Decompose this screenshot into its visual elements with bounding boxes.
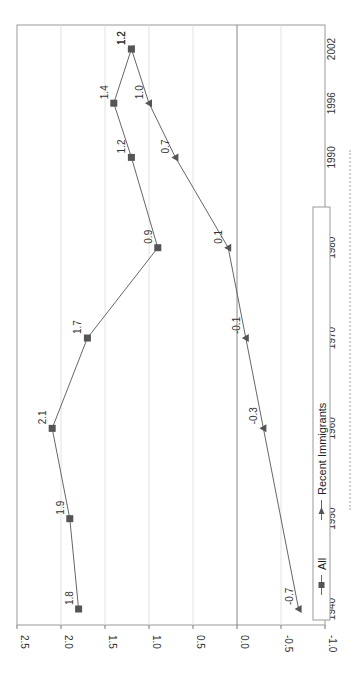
plot-area: [17, 25, 325, 625]
data-label: 2.1: [37, 410, 48, 424]
series-layer: 1.81.92.11.70.91.21.41.2-0.7-0.3-0.10.10…: [37, 31, 301, 613]
value-tick-label: 1.0: [151, 635, 162, 649]
data-label: 1.8: [64, 591, 75, 605]
year-tick-label: 1996: [326, 92, 337, 115]
value-tick-label: 1.5: [107, 635, 118, 649]
value-tick-label: 0.5: [195, 635, 206, 649]
gridlines: [61, 25, 281, 625]
square-marker-icon: [66, 515, 73, 522]
legend-square-icon: [319, 582, 325, 588]
legend-label: Recent Immigrants: [316, 402, 328, 495]
square-marker-icon: [84, 335, 91, 342]
legend: AllRecent Immigrants: [313, 207, 330, 620]
plot-border: [17, 25, 325, 625]
data-label: 1.4: [99, 85, 110, 99]
data-label: 0.7: [160, 139, 171, 153]
triangle-marker-icon: [224, 244, 231, 252]
rotated-line-chart: 2.52.01.51.00.50.0-0.5-1.0 1940195019601…: [0, 0, 359, 687]
data-label: 1.2: [116, 31, 127, 45]
year-tick-label: 2002: [326, 37, 337, 60]
data-label: 1.7: [72, 320, 83, 334]
series-line-recent-immigrants: [131, 49, 298, 609]
data-label: 1.2: [116, 139, 127, 153]
data-label: 1.9: [55, 500, 66, 514]
square-marker-icon: [128, 154, 135, 161]
value-tick-label: 2.0: [63, 635, 74, 649]
value-tick-label: -1.0: [327, 635, 338, 653]
year-tick-label: 1990: [326, 146, 337, 169]
data-label: -0.1: [231, 316, 242, 334]
data-label: 0.1: [213, 229, 224, 243]
data-label: -0.3: [248, 407, 259, 425]
square-marker-icon: [49, 425, 56, 432]
data-label: 0.9: [143, 229, 154, 243]
value-tick-label: 2.5: [19, 635, 30, 649]
legend-label: All: [316, 558, 328, 570]
value-tick-label: -0.5: [283, 635, 294, 653]
value-axis: 2.52.01.51.00.50.0-0.5-1.0: [17, 625, 338, 653]
square-marker-icon: [110, 100, 117, 107]
data-label: -0.7: [284, 587, 295, 605]
value-tick-label: 0.0: [239, 635, 250, 649]
data-label: 1.0: [134, 85, 145, 99]
figure-caption-faint: [349, 150, 353, 510]
square-marker-icon: [154, 244, 161, 251]
square-marker-icon: [75, 606, 82, 613]
triangle-marker-icon: [171, 153, 178, 161]
